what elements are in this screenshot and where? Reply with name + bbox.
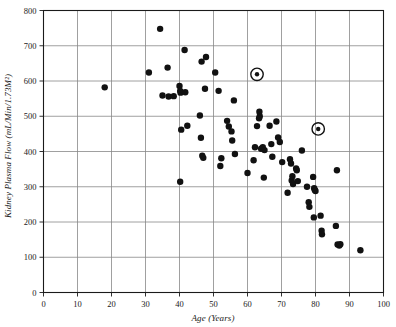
data-point <box>333 223 339 229</box>
grid-lines <box>44 11 384 293</box>
data-point <box>254 123 260 129</box>
plot-canvas: 0100200300400500600700800010203040506070… <box>0 0 396 327</box>
y-tick-label: 200 <box>24 217 37 227</box>
x-axis-title: Age (Years) <box>191 313 234 323</box>
data-point <box>178 126 184 132</box>
data-point <box>199 153 205 159</box>
data-point <box>266 123 272 129</box>
data-point <box>252 144 258 150</box>
data-point <box>289 173 295 179</box>
y-tick-label: 600 <box>24 76 37 86</box>
data-point <box>146 69 152 75</box>
y-tick-label: 400 <box>24 147 37 157</box>
data-point <box>304 184 310 190</box>
data-point <box>288 160 294 166</box>
data-point <box>212 69 218 75</box>
data-point <box>269 154 275 160</box>
data-point <box>310 174 316 180</box>
data-point <box>319 231 325 237</box>
data-points <box>102 26 364 254</box>
data-point <box>203 54 209 60</box>
data-point <box>231 97 237 103</box>
data-point <box>232 151 238 157</box>
data-point <box>102 84 108 90</box>
data-point <box>261 174 267 180</box>
y-tick-label: 500 <box>24 111 37 121</box>
data-point <box>357 247 363 253</box>
data-point <box>317 212 323 218</box>
data-point <box>217 163 223 169</box>
y-tick-label: 100 <box>24 252 37 262</box>
kidney-plasma-flow-scatter-figure: Kidney Plasma Flow (mL/Min/1.73M²) 01002… <box>0 0 396 327</box>
data-point <box>197 112 203 118</box>
data-point <box>311 214 317 220</box>
data-point <box>273 118 279 124</box>
data-point <box>218 155 224 161</box>
data-point <box>277 139 283 145</box>
data-point <box>299 147 305 153</box>
data-point <box>215 88 221 94</box>
data-point <box>164 64 170 70</box>
y-tick-label: 300 <box>24 182 37 192</box>
data-point <box>171 93 177 99</box>
data-point <box>177 179 183 185</box>
y-tick-label: 0 <box>32 288 36 298</box>
data-point <box>244 170 250 176</box>
data-point <box>312 188 318 194</box>
data-point <box>159 92 165 98</box>
data-point <box>157 26 163 32</box>
y-tick-label: 800 <box>24 6 37 16</box>
data-point <box>295 178 301 184</box>
data-point <box>284 190 290 196</box>
data-point <box>306 204 312 210</box>
data-point <box>337 241 343 247</box>
y-tick-label: 700 <box>24 41 37 51</box>
data-point <box>294 167 300 173</box>
data-point <box>202 86 208 92</box>
data-point <box>228 128 234 134</box>
circled-dot-marker <box>312 123 324 135</box>
data-point <box>181 47 187 53</box>
highlighted-data-points <box>251 68 325 135</box>
data-point <box>279 159 285 165</box>
data-point <box>224 118 230 124</box>
data-point <box>261 147 267 153</box>
x-axis-title-container: Age (Years) <box>43 307 383 325</box>
data-point <box>182 89 188 95</box>
tick-marks <box>40 11 384 297</box>
data-point <box>184 123 190 129</box>
data-point <box>334 167 340 173</box>
data-point <box>256 115 262 121</box>
data-point <box>250 157 256 163</box>
data-point <box>268 141 274 147</box>
data-point <box>198 135 204 141</box>
data-point <box>229 137 235 143</box>
circled-dot-marker <box>251 68 263 80</box>
tick-labels: 0100200300400500600700800010203040506070… <box>24 6 390 309</box>
